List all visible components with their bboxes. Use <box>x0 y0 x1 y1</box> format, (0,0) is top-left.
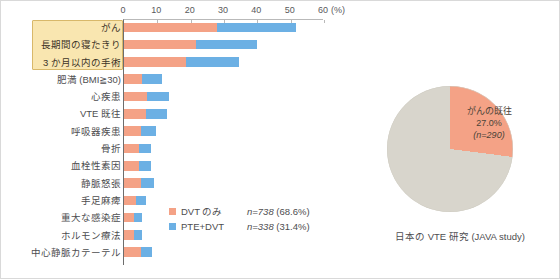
bar-segment-dvt <box>124 57 186 67</box>
bar-segment-dvt <box>124 23 217 33</box>
x-tick-0: 0 <box>120 5 125 16</box>
legend-stat: n=338 (31.4%) <box>247 219 310 234</box>
bar-track <box>124 213 142 223</box>
legend-label: DVT のみ <box>181 204 241 219</box>
bar-segment-pte-dvt <box>141 247 153 257</box>
bar-track <box>124 230 142 240</box>
bar-row-label: 心疾患 <box>3 88 121 105</box>
bar-segment-pte-dvt <box>141 126 156 136</box>
pie-slice-callout: がんの既往 27.0% (n=290) <box>451 105 527 141</box>
bar-track <box>124 40 257 50</box>
bar-row: 心疾患 <box>1 88 351 105</box>
bar-segment-dvt <box>124 144 139 154</box>
bar-row-label: 静脈怒張 <box>3 175 121 192</box>
bar-row-label: 3 か月以内の手術 <box>3 54 121 71</box>
bar-segment-dvt <box>124 230 134 240</box>
bar-track <box>124 126 156 136</box>
bar-track <box>124 57 239 67</box>
figure-container: 0102030405060(%) がん長期間の寝たきり3 か月以内の手術肥満 (… <box>0 0 560 279</box>
bar-segment-pte-dvt <box>217 23 295 33</box>
bar-row-label: 肥満 (BMI≧30) <box>3 71 121 88</box>
bar-segment-pte-dvt <box>139 161 151 171</box>
bar-track <box>124 92 169 102</box>
bar-row-label: 中心静脈カテーテル <box>3 244 121 261</box>
bar-row: 肥満 (BMI≧30) <box>1 71 351 88</box>
pie-callout-label: がんの既往 <box>451 105 527 117</box>
x-tick-50: 50 <box>285 5 295 16</box>
legend-percent: (68.6%) <box>274 206 310 217</box>
bar-segment-pte-dvt <box>141 178 154 188</box>
bar-row-label: がん <box>3 19 121 36</box>
pie-caption: 日本の VTE 研究 (JAVA study) <box>359 229 560 243</box>
legend-stat: n=738 (68.6%) <box>247 204 310 219</box>
bar-segment-dvt <box>124 161 139 171</box>
bar-track <box>124 23 296 33</box>
bar-row-label: 骨折 <box>3 140 121 157</box>
bar-track <box>124 178 154 188</box>
bar-segment-pte-dvt <box>196 40 258 50</box>
bar-segment-dvt <box>124 247 141 257</box>
bar-row-label: ホルモン療法 <box>3 227 121 244</box>
legend-percent: (31.4%) <box>274 221 310 232</box>
pie-callout-n: (n=290) <box>451 129 527 141</box>
bar-track <box>124 74 162 84</box>
bar-track <box>124 109 167 119</box>
legend-n-value: n=338 <box>247 221 274 232</box>
bar-segment-pte-dvt <box>139 144 151 154</box>
bar-segment-dvt <box>124 40 196 50</box>
bar-segment-pte-dvt <box>136 196 146 206</box>
x-tick-20: 20 <box>185 5 195 16</box>
bar-segment-pte-dvt <box>186 57 239 67</box>
bar-track <box>124 144 151 154</box>
bar-segment-pte-dvt <box>134 230 142 240</box>
bar-row: 血栓性素因 <box>1 157 351 174</box>
bar-row: 骨折 <box>1 140 351 157</box>
bar-row: 長期間の寝たきり <box>1 36 351 53</box>
x-tick-10: 10 <box>151 5 161 16</box>
bar-row-label: 血栓性素因 <box>3 157 121 174</box>
bar-segment-dvt <box>124 74 142 84</box>
bar-segment-dvt <box>124 126 141 136</box>
bar-row: 呼吸器疾患 <box>1 123 351 140</box>
legend-item: DVT のみn=738 (68.6%) <box>169 204 310 219</box>
bar-row-label: 重大な感染症 <box>3 209 121 226</box>
bar-track <box>124 196 146 206</box>
bar-row: がん <box>1 19 351 36</box>
bar-row: 中心静脈カテーテル <box>1 244 351 261</box>
bar-chart-panel: 0102030405060(%) がん長期間の寝たきり3 か月以内の手術肥満 (… <box>1 1 351 279</box>
legend-label: PTE+DVT <box>181 219 241 234</box>
pie-callout-percent: 27.0% <box>451 117 527 129</box>
bar-segment-dvt <box>124 178 141 188</box>
bar-segment-dvt <box>124 92 147 102</box>
bar-row-label: VTE 既往 <box>3 105 121 122</box>
x-tick-40: 40 <box>251 5 261 16</box>
bar-segment-pte-dvt <box>146 109 168 119</box>
bar-segment-pte-dvt <box>147 92 169 102</box>
legend-swatch-icon <box>169 208 176 215</box>
bar-track <box>124 247 152 257</box>
bar-row-label: 呼吸器疾患 <box>3 123 121 140</box>
x-tick-30: 30 <box>218 5 228 16</box>
bar-track <box>124 161 151 171</box>
legend-swatch-icon <box>169 223 176 230</box>
bar-segment-dvt <box>124 196 136 206</box>
bar-row: VTE 既往 <box>1 105 351 122</box>
legend-n-value: n=738 <box>247 206 274 217</box>
bar-segment-pte-dvt <box>142 74 162 84</box>
bar-segment-dvt <box>124 213 134 223</box>
x-axis-tick-labels: 0102030405060(%) <box>1 5 351 19</box>
bar-row-label: 長期間の寝たきり <box>3 36 121 53</box>
bar-segment-dvt <box>124 109 146 119</box>
pie-chart-panel: がんの既往 27.0% (n=290) 日本の VTE 研究 (JAVA stu… <box>359 1 560 279</box>
x-axis-unit: (%) <box>331 5 345 16</box>
x-tick-60: 60 <box>318 5 328 16</box>
bar-row: 静脈怒張 <box>1 175 351 192</box>
bar-row-label: 手足麻痺 <box>3 192 121 209</box>
bar-segment-pte-dvt <box>134 213 142 223</box>
bar-row: 3 か月以内の手術 <box>1 54 351 71</box>
chart-legend: DVT のみn=738 (68.6%)PTE+DVTn=338 (31.4%) <box>169 204 310 234</box>
legend-item: PTE+DVTn=338 (31.4%) <box>169 219 310 234</box>
